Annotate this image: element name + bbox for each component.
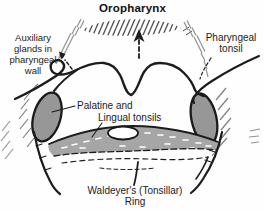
label-pharyngeal-tonsil: Pharyngeal tonsil: [199, 32, 263, 54]
left-arrow-tail: [65, 60, 72, 69]
label-palatine-line2: Lingual tonsils: [98, 112, 161, 123]
oropharynx-figure: Oropharynx Auxiliary glands in pharyngea…: [0, 0, 265, 213]
label-waldeyers-ring: Waldeyer's (Tonsillar) Ring: [68, 185, 202, 207]
tongue-dashed-line-2: [100, 168, 155, 170]
tongue-dashed-line: [62, 157, 208, 163]
edge-hatch-bottom-left: [1, 121, 13, 159]
figure-title: Oropharynx: [0, 2, 265, 14]
edge-marks-right: [249, 129, 260, 143]
median-sulcus-line: [134, 162, 138, 185]
label-auxiliary-glands: Auxiliary glands in pharyngeal wall: [3, 32, 63, 76]
pharyngeal-pointer-line: [200, 58, 211, 79]
epiglottis-bump: [108, 127, 138, 140]
label-palatine-line1: Palatine and: [77, 100, 133, 111]
palatine-tonsil-left: [27, 89, 67, 145]
